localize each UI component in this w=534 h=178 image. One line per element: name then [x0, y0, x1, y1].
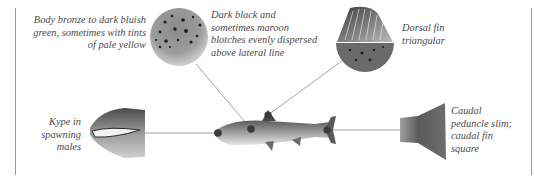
callout-caudal: Caudal peduncle slim; caudal fin square: [451, 105, 512, 155]
callout-line: Caudal: [451, 105, 512, 118]
callout-line: peduncle slim;: [451, 118, 512, 131]
caudal-fin-detail: [400, 103, 446, 160]
callout-line: Dark black and: [211, 9, 317, 22]
callout-line: triangular: [402, 35, 445, 48]
callout-line: caudal fin: [451, 130, 512, 143]
callout-line: green, sometimes with tints: [20, 27, 146, 40]
callout-blotches: Dark black and sometimes maroon blotches…: [211, 9, 317, 59]
connector-dorsal: [268, 58, 346, 115]
callout-line: spawning: [20, 129, 81, 142]
callout-line: of pale yellow: [20, 39, 146, 52]
dorsal-fin-detail: [336, 7, 394, 72]
callout-body-color: Body bronze to dark bluish green, someti…: [20, 14, 146, 52]
callout-line: males: [20, 141, 81, 154]
connector-blotches: [196, 64, 251, 129]
callout-dorsal-fin: Dorsal fin triangular: [402, 22, 445, 47]
callout-line: blotches evenly dispersed: [211, 34, 317, 47]
callout-line: Body bronze to dark bluish: [20, 14, 146, 27]
callout-kype: Kype in spawning males: [20, 116, 81, 154]
whole-fish: [214, 110, 336, 151]
callout-line: Kype in: [20, 116, 81, 129]
callout-line: Dorsal fin: [402, 22, 445, 35]
callout-line: above lateral line: [211, 47, 317, 60]
skin-detail-circle: [150, 8, 208, 66]
callout-line: sometimes maroon: [211, 22, 317, 35]
callout-line: square: [451, 143, 512, 156]
kype-head-detail: [90, 108, 145, 158]
